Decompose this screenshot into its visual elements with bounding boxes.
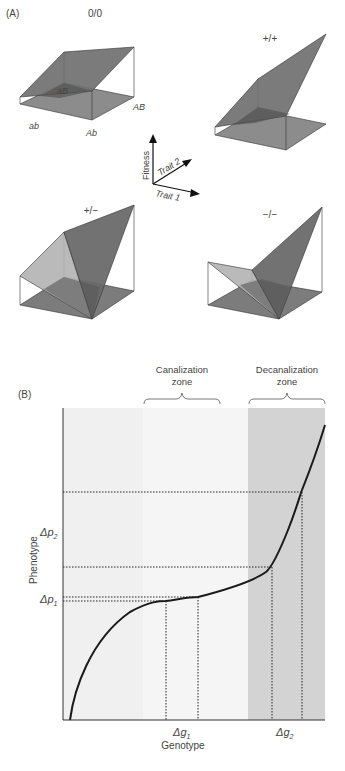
genotype-label-Ab: Ab: [85, 128, 97, 138]
x-axis-label: Genotype: [161, 740, 205, 751]
arrow-right-icon: [190, 189, 200, 197]
canalization-zone-title: Canalization: [156, 364, 208, 375]
arrow-up-icon: [149, 134, 157, 143]
landscape-minus-minus: −/−: [208, 207, 322, 319]
decanalization-zone-subtitle: zone: [277, 376, 298, 387]
genotype-label-ab: ab: [29, 121, 39, 131]
landscape-title: +/+: [263, 33, 278, 44]
landscape-title: 0/0: [88, 8, 102, 19]
landscape-title: +/−: [84, 205, 99, 216]
panel-a-label: (A): [6, 8, 19, 19]
canalization-brace: [144, 393, 220, 404]
fitness-axis-label: Fitness: [141, 150, 151, 180]
zone-labels: Canalization zone Decanalization zone: [144, 364, 325, 404]
x-tick-delta-g1: Δg1: [172, 726, 191, 740]
y-tick-delta-p2: Δp2: [39, 526, 58, 540]
figure-canvas: (A) 0/0 ab aB Ab AB +/+ Fitnes: [0, 0, 345, 771]
decanalization-zone-title: Decanalization: [256, 364, 318, 375]
plot-area: [63, 408, 325, 720]
y-tick-delta-p1: Δp1: [39, 593, 58, 607]
decanalization-brace: [249, 393, 325, 404]
trait1-axis-label: Trait 1: [155, 188, 181, 203]
x-tick-delta-g2: Δg2: [275, 726, 294, 740]
genotype-label-aB: aB: [57, 86, 68, 96]
canalization-zone-subtitle: zone: [172, 376, 193, 387]
axis-triad: Fitness Trait 2 Trait 1: [141, 134, 200, 203]
landscape-plus-plus: +/+: [215, 33, 326, 150]
decanalization-zone-shade: [248, 408, 325, 720]
panel-b-label: (B): [18, 389, 31, 400]
landscape-title: −/−: [263, 209, 278, 220]
landscape-0-0: 0/0 ab aB Ab AB: [20, 8, 145, 138]
genotype-label-AB: AB: [132, 102, 145, 112]
landscape-plus-minus: +/−: [20, 205, 134, 319]
arrow-diagonal-icon: [182, 159, 192, 167]
y-axis-label: Phenotype: [28, 536, 39, 584]
